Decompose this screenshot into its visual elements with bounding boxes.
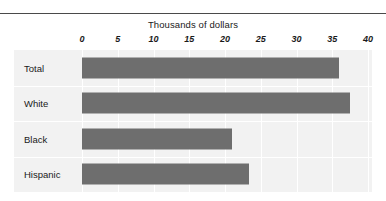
chart-row: White — [14, 86, 372, 122]
plot-area: TotalWhiteBlackHispanic — [14, 50, 372, 192]
x-axis-tick-labels: 0510152025303540 — [14, 34, 372, 48]
row-separator — [14, 86, 372, 87]
x-tick-label: 15 — [184, 34, 194, 44]
x-tick-label: 25 — [256, 34, 266, 44]
x-tick-label: 40 — [363, 34, 373, 44]
category-label: Total — [24, 62, 44, 73]
data-bar — [82, 128, 232, 149]
x-tick-label: 20 — [220, 34, 230, 44]
data-bar — [82, 57, 339, 78]
x-tick-label: 0 — [79, 34, 84, 44]
category-label: Black — [24, 133, 47, 144]
category-label: White — [24, 98, 48, 109]
x-tick-label: 5 — [115, 34, 120, 44]
chart-title: Thousands of dollars — [0, 19, 386, 30]
chart-row: Hispanic — [14, 157, 372, 193]
x-tick-label: 35 — [327, 34, 337, 44]
category-label: Hispanic — [24, 169, 60, 180]
data-bar — [82, 164, 249, 185]
x-tick-label: 30 — [291, 34, 301, 44]
data-bar — [82, 93, 350, 114]
row-separator — [14, 121, 372, 122]
row-separator — [14, 157, 372, 158]
x-tick-label: 10 — [148, 34, 158, 44]
chart-row: Black — [14, 121, 372, 157]
chart-figure: Thousands of dollars 0510152025303540 To… — [0, 0, 386, 201]
chart-row: Total — [14, 50, 372, 86]
top-divider-rule — [0, 13, 386, 14]
